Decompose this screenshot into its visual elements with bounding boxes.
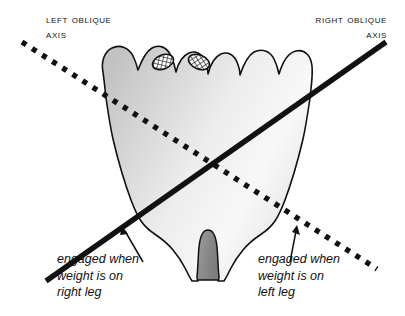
annotation-right-leg: engaged when weight is on right leg xyxy=(57,251,139,301)
left-oblique-axis-label: Left Oblique Axis xyxy=(46,12,112,42)
coccyx xyxy=(197,230,219,280)
annotation-left-leg: engaged when weight is on left leg xyxy=(258,251,340,301)
figure-canvas: Left Oblique Axis Right Oblique Axis eng… xyxy=(0,0,405,316)
right-oblique-axis-label: Right Oblique Axis xyxy=(316,12,387,42)
